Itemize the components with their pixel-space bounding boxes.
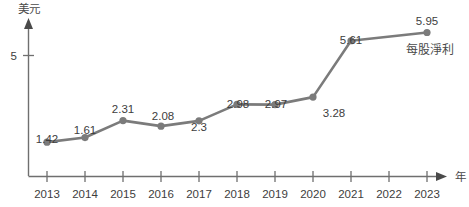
value-label-2023: 5.95	[416, 15, 438, 27]
chart-canvas: 5 美元 年 2013 2014 2015 2016 2017 2018 201…	[0, 0, 469, 207]
y-tick-label-5: 5	[11, 50, 17, 62]
value-label-2020: 3.28	[323, 107, 345, 119]
x-tick-label-2021: 2021	[338, 188, 364, 200]
value-label-2019: 2.97	[265, 98, 287, 110]
value-label-2016: 2.08	[152, 110, 174, 122]
series-name-label: 每股淨利	[406, 42, 454, 57]
data-point-marker	[309, 94, 316, 101]
x-tick-label-2022: 2022	[376, 188, 402, 200]
value-label-2013: 1.42	[36, 133, 58, 145]
y-axis-title: 美元	[18, 2, 41, 15]
x-axis-title: 年	[455, 170, 466, 183]
value-label-2014: 1.61	[74, 124, 96, 136]
value-label-2017: 2.3	[191, 121, 207, 133]
value-label-2018: 2.98	[227, 98, 249, 110]
data-point-marker	[157, 123, 164, 130]
x-tick-label-2018: 2018	[224, 188, 250, 200]
x-tick-label-2017: 2017	[186, 188, 212, 200]
data-point-marker	[423, 29, 430, 36]
x-tick-label-2014: 2014	[72, 188, 98, 200]
eps-line-chart: 5 美元 年 2013 2014 2015 2016 2017 2018 201…	[0, 0, 469, 207]
eps-series-line	[47, 33, 427, 143]
x-tick-label-2023: 2023	[414, 188, 440, 200]
x-tick-label-2020: 2020	[300, 188, 326, 200]
x-axis-arrow-icon	[436, 172, 447, 181]
x-tick-label-2016: 2016	[148, 188, 174, 200]
x-tick-label-2019: 2019	[262, 188, 288, 200]
y-axis-arrow-icon	[24, 18, 33, 29]
x-tick-label-2015: 2015	[110, 188, 136, 200]
value-label-2015: 2.31	[112, 103, 134, 115]
value-label-2021: 5.61	[340, 34, 362, 46]
data-point-marker	[119, 117, 126, 124]
x-tick-label-2013: 2013	[34, 188, 60, 200]
eps-series-markers	[43, 29, 430, 146]
